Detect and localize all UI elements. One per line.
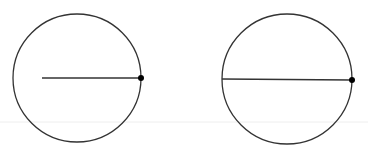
radius-figure [13, 14, 144, 142]
edge-point [138, 75, 144, 81]
edge-point [349, 77, 355, 83]
circles-diagram [0, 0, 368, 158]
diameter-figure [222, 14, 355, 144]
diameter-segment [222, 79, 352, 80]
